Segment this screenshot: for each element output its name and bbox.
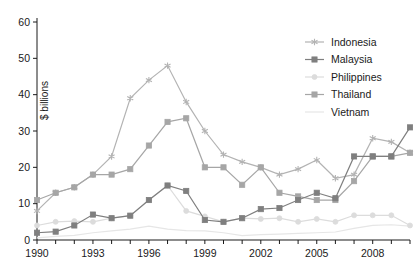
legend-item-philippines[interactable]: Philippines	[305, 71, 382, 83]
data-point-marker	[277, 205, 282, 210]
data-point-marker	[312, 57, 317, 62]
x-tick-label: 1993	[81, 247, 105, 259]
data-point-marker	[333, 196, 338, 201]
data-point-marker	[370, 213, 375, 218]
legend: IndonesiaMalaysiaPhilippinesThailandViet…	[305, 36, 382, 118]
data-point-marker	[53, 219, 58, 224]
chart-container: $ billions 01020304050601990199319961999…	[0, 0, 416, 279]
series-vietnam	[37, 225, 410, 238]
x-tick-label: 1999	[193, 247, 217, 259]
legend-item-malaysia[interactable]: Malaysia	[305, 53, 373, 65]
x-tick-label: 2008	[361, 247, 385, 259]
data-point-marker	[72, 223, 77, 228]
data-point-marker	[258, 216, 263, 221]
y-tick-label: 20	[18, 161, 30, 173]
data-point-marker	[109, 172, 114, 177]
data-point-marker	[90, 212, 95, 217]
data-point-marker	[314, 197, 319, 202]
data-point-marker	[277, 190, 282, 195]
data-point-marker	[184, 116, 189, 121]
y-tick-label: 50	[18, 52, 30, 64]
data-point-marker	[202, 217, 207, 222]
data-point-marker	[296, 197, 301, 202]
data-point-marker	[240, 216, 245, 221]
data-point-marker	[202, 165, 207, 170]
legend-item-vietnam[interactable]: Vietnam	[305, 106, 370, 118]
y-tick-label: 40	[18, 88, 30, 100]
data-point-marker	[408, 223, 413, 228]
y-tick-label: 30	[18, 125, 30, 137]
line-chart: 0102030405060199019931996199920022005200…	[0, 0, 416, 279]
data-point-marker	[333, 219, 338, 224]
x-tick-label: 1990	[25, 247, 49, 259]
data-point-marker	[90, 172, 95, 177]
data-point-marker	[221, 165, 226, 170]
data-point-marker	[351, 154, 356, 159]
data-point-marker	[34, 230, 39, 235]
legend-label: Malaysia	[331, 53, 373, 65]
data-point-marker	[296, 219, 301, 224]
data-point-marker	[165, 183, 170, 188]
data-point-marker	[165, 119, 170, 124]
data-point-marker	[90, 219, 95, 224]
data-point-marker	[184, 208, 189, 213]
x-tick-label: 1996	[137, 247, 161, 259]
data-point-marker	[407, 125, 412, 130]
data-point-marker	[221, 219, 226, 224]
data-point-marker	[128, 167, 133, 172]
data-point-marker	[352, 213, 357, 218]
data-point-marker	[314, 190, 319, 195]
legend-label: Thailand	[331, 88, 371, 100]
data-point-marker	[34, 197, 39, 202]
data-point-marker	[146, 143, 151, 148]
series-indonesia	[34, 62, 413, 214]
data-point-marker	[184, 188, 189, 193]
data-point-marker	[277, 216, 282, 221]
x-tick-label: 2002	[249, 247, 273, 259]
data-point-marker	[146, 197, 151, 202]
legend-item-indonesia[interactable]: Indonesia	[305, 36, 377, 48]
data-point-marker	[53, 190, 58, 195]
data-point-marker	[314, 216, 319, 221]
legend-label: Indonesia	[331, 36, 377, 48]
data-point-marker	[312, 75, 317, 80]
data-point-marker	[128, 213, 133, 218]
data-point-marker	[370, 154, 375, 159]
x-tick-label: 2005	[305, 247, 329, 259]
data-point-marker	[258, 165, 263, 170]
data-point-marker	[407, 150, 412, 155]
legend-label: Vietnam	[331, 106, 370, 118]
data-point-marker	[240, 182, 245, 187]
series-line	[37, 225, 410, 238]
y-tick-label: 0	[24, 234, 30, 246]
data-point-marker	[53, 229, 58, 234]
data-point-marker	[109, 216, 114, 221]
legend-label: Philippines	[331, 71, 382, 83]
data-point-marker	[389, 213, 394, 218]
y-tick-label: 60	[18, 16, 30, 28]
legend-item-thailand[interactable]: Thailand	[305, 88, 371, 100]
data-point-marker	[351, 179, 356, 184]
data-point-marker	[312, 92, 317, 97]
data-point-marker	[389, 154, 394, 159]
data-point-marker	[35, 223, 40, 228]
data-point-marker	[72, 185, 77, 190]
y-tick-label: 10	[18, 197, 30, 209]
data-point-marker	[258, 207, 263, 212]
